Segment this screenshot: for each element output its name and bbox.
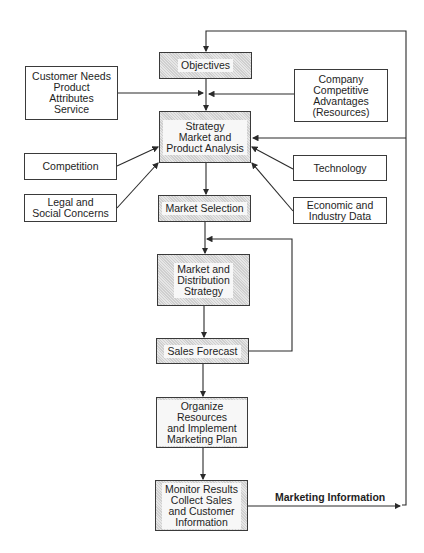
edge-label-marketing-information: Marketing Information	[275, 491, 385, 503]
node-label: Strategy Market and Product Analysis	[163, 120, 247, 155]
node-economic-industry: Economic and Industry Data	[293, 197, 387, 224]
node-objectives: Objectives	[159, 52, 252, 79]
node-technology: Technology	[293, 155, 387, 181]
node-label: Legal and Social Concerns	[32, 197, 108, 219]
node-label: Technology	[313, 163, 366, 174]
node-organize-resources: Organize Resources and Implement Marketi…	[156, 397, 248, 448]
node-customer-needs: Customer Needs Product Attributes Servic…	[25, 66, 118, 120]
node-strategy: Strategy Market and Product Analysis	[159, 111, 251, 163]
node-label: Organize Resources and Implement Marketi…	[157, 400, 247, 446]
node-monitor-results: Monitor Results Collect Sales and Custom…	[155, 480, 248, 531]
node-market-distribution: Market and Distribution Strategy	[157, 254, 250, 306]
node-label: Competition	[42, 161, 98, 172]
node-label: Market Selection	[162, 202, 246, 215]
node-label: Objectives	[178, 59, 233, 72]
node-legal-social: Legal and Social Concerns	[24, 194, 117, 222]
node-company-advantages: Company Competitive Advantages (Resource…	[294, 69, 388, 122]
node-label: Sales Forecast	[164, 345, 240, 358]
node-label: Market and Distribution Strategy	[174, 263, 233, 298]
node-label: Customer Needs Product Attributes Servic…	[32, 71, 111, 115]
node-label: Monitor Results Collect Sales and Custom…	[162, 483, 241, 529]
node-competition: Competition	[24, 153, 117, 180]
node-sales-forecast: Sales Forecast	[156, 338, 249, 364]
node-label: Company Competitive Advantages (Resource…	[312, 74, 369, 118]
node-label: Economic and Industry Data	[307, 200, 374, 222]
node-market-selection: Market Selection	[158, 195, 251, 222]
